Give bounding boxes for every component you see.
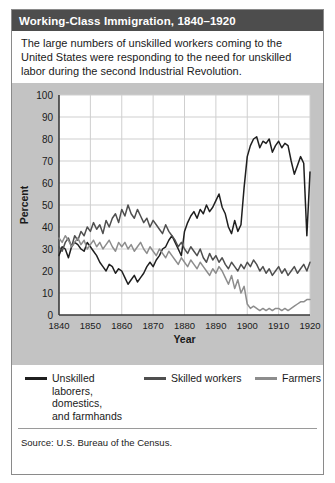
y-tick-label: 100 bbox=[36, 90, 53, 101]
x-tick-label: 1840 bbox=[48, 320, 69, 331]
y-axis-title: Percent bbox=[18, 186, 30, 225]
figure-title-bar: Working-Class Immigration, 1840–1920 bbox=[12, 10, 323, 31]
y-tick-label: 20 bbox=[42, 266, 54, 277]
chart-panel: 0102030405060708090100184018501860187018… bbox=[12, 83, 323, 365]
figure-caption: The large numbers of unskilled workers c… bbox=[12, 31, 323, 82]
x-axis-title: Year bbox=[173, 333, 195, 345]
line-chart: 0102030405060708090100184018501860187018… bbox=[12, 83, 323, 365]
y-tick-label: 40 bbox=[42, 222, 54, 233]
legend-item-unskilled: Unskilled laborers, domestics, and farmh… bbox=[25, 372, 143, 422]
y-tick-label: 30 bbox=[42, 244, 54, 255]
y-tick-label: 50 bbox=[42, 200, 54, 211]
x-tick-label: 1860 bbox=[111, 320, 132, 331]
legend-swatch-unskilled bbox=[25, 377, 47, 380]
legend-swatch-skilled bbox=[144, 377, 166, 380]
y-tick-label: 60 bbox=[42, 178, 54, 189]
y-tick-label: 80 bbox=[42, 134, 54, 145]
x-tick-label: 1900 bbox=[237, 320, 258, 331]
x-tick-label: 1920 bbox=[299, 320, 320, 331]
x-tick-label: 1890 bbox=[205, 320, 226, 331]
legend-swatch-farmers bbox=[255, 377, 277, 380]
x-tick-label: 1910 bbox=[268, 320, 289, 331]
chart-legend: Unskilled laborers, domestics, and farmh… bbox=[12, 365, 323, 421]
legend-label-farmers: Farmers bbox=[282, 372, 321, 384]
legend-item-skilled: Skilled workers bbox=[144, 372, 254, 384]
legend-item-farmers: Farmers bbox=[255, 372, 325, 384]
figure-title: Working-Class Immigration, 1840–1920 bbox=[19, 15, 236, 27]
legend-label-unskilled: Unskilled laborers, domestics, and farmh… bbox=[52, 372, 122, 422]
y-tick-label: 90 bbox=[42, 112, 54, 123]
figure-container: Working-Class Immigration, 1840–1920 The… bbox=[11, 9, 324, 475]
x-tick-label: 1880 bbox=[174, 320, 195, 331]
y-tick-label: 70 bbox=[42, 156, 54, 167]
x-tick-label: 1850 bbox=[80, 320, 101, 331]
figure-source: Source: U.S. Bureau of the Census. bbox=[12, 429, 323, 448]
legend-label-skilled: Skilled workers bbox=[171, 372, 242, 384]
x-tick-label: 1870 bbox=[143, 320, 164, 331]
y-tick-label: 10 bbox=[42, 288, 54, 299]
